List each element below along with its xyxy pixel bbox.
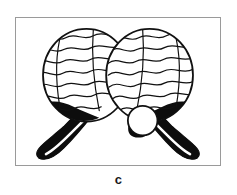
ball-group	[128, 106, 158, 138]
right-racket	[106, 29, 199, 159]
ball	[128, 106, 158, 136]
illustration-frame	[15, 17, 221, 166]
figure-root: c	[0, 0, 237, 195]
paddle-rackets-illustration	[16, 18, 220, 165]
figure-caption-label: c	[0, 170, 237, 190]
